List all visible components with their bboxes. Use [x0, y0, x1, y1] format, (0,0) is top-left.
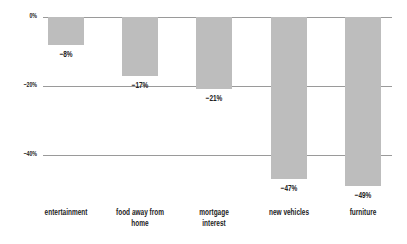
bar-new-vehicles [271, 17, 307, 179]
y-tick-label: −20% [15, 81, 38, 88]
bar-mortgage-interest [196, 17, 232, 89]
category-label: mortgageinterest [182, 207, 247, 229]
bar-food-away-from-home [122, 17, 158, 76]
category-label: furniture [331, 207, 396, 218]
value-label: −8% [48, 49, 84, 59]
value-label: −49% [345, 190, 381, 200]
value-label: −21% [196, 93, 232, 103]
category-label: new vehicles [257, 207, 322, 218]
y-tick-label: −40% [15, 150, 38, 157]
category-label-line: entertainment [34, 207, 99, 218]
value-label: −17% [122, 80, 158, 90]
gridline [43, 155, 392, 156]
category-label: food away fromhome [108, 207, 173, 229]
category-label-line: mortgage [182, 207, 247, 218]
category-label-line: interest [182, 218, 247, 229]
value-label: −47% [271, 183, 307, 193]
bar-furniture [345, 17, 381, 186]
category-label-line: new vehicles [257, 207, 322, 218]
category-label-line: furniture [331, 207, 396, 218]
category-label: entertainment [34, 207, 99, 218]
category-label-line: food away from [108, 207, 173, 218]
y-tick-label: 0% [15, 12, 38, 19]
category-label-line: home [108, 218, 173, 229]
bar-entertainment [48, 17, 84, 45]
bar-chart: 0%−20%−40%−8%entertainment−17%food away … [0, 0, 407, 244]
